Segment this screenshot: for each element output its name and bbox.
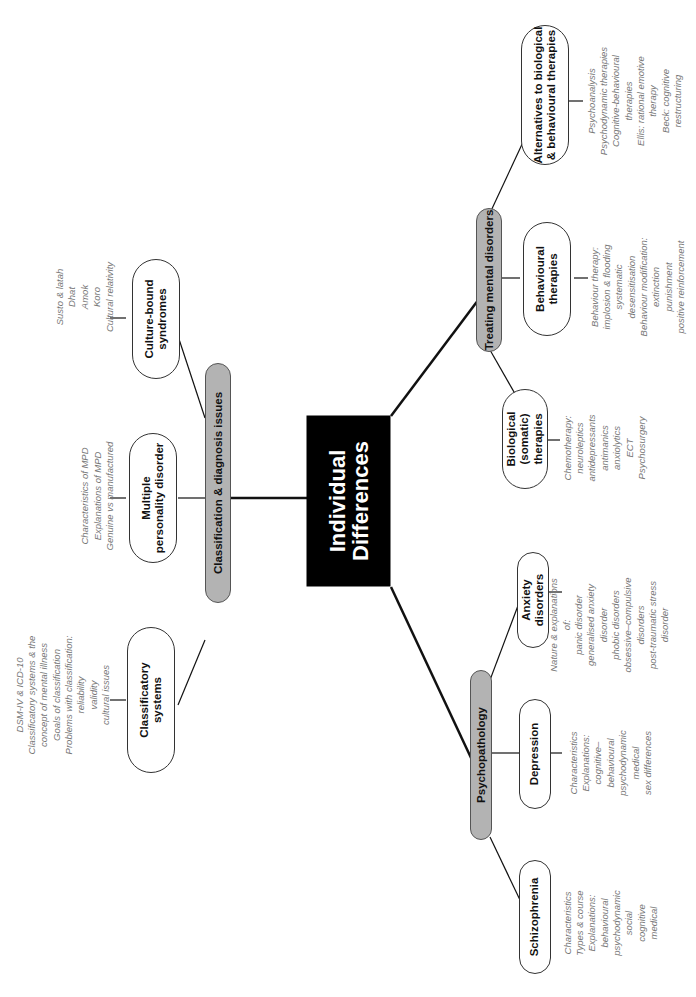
leaf-biological-line2: (somatic) therapies [518,390,544,488]
note-line: Psychosurgery [636,417,648,480]
note-line: obsessive–compulsive [622,577,634,672]
note-line: Classificatory systems & the [26,636,38,755]
notes-classificatory-systems: DSM-IV & ICD-10 Classificatory systems &… [16,620,110,770]
note-line: cognitive [636,904,648,942]
note-line: Goals of classification [51,649,63,741]
leaf-classificatory-line2: systems [151,677,164,723]
branch-treating-label: Treating mental disorders [483,210,495,351]
note-line: desensitisation [626,256,638,319]
note-line: Explanations: [580,734,592,791]
leaf-alternatives-line1: Alternatives to biological [532,27,545,164]
note-line: phobic disorders [610,590,622,660]
note-line: neuroleptics [574,422,586,473]
leaf-classificatory-systems: Classificatory systems [127,627,175,773]
note-line: generalised anxiety [585,584,597,666]
note-line: antidepressants [586,414,598,481]
note-line: panic disorder [573,595,585,655]
note-line: Behaviour therapy: [589,247,601,327]
note-line: implosion & flooding [601,244,613,329]
branch-psychopathology-label: Psychopathology [475,707,487,803]
leaf-depression-label: Depression [528,723,541,786]
note-line: of: [561,620,573,631]
note-line: anxiolytics [611,426,623,470]
note-line: social [623,911,635,935]
note-line: disorders [635,605,647,644]
note-line: Explanations of MPD [92,452,104,541]
note-line: extinction [650,267,662,307]
notes-alternatives-therapies: Psychoanalysis Psychodynamic therapies C… [590,41,680,161]
note-line: concept of mental illness [38,643,50,747]
central-title-line2: Differences [349,441,372,561]
note-line: Chemotherapy: [562,416,574,481]
leaf-biological-line1: Biological [505,412,518,467]
note-line: Susto & latah [54,269,66,326]
leaf-schizophrenia-label: Schizophrenia [528,878,541,957]
note-line: Psychodynamic therapies [598,47,610,155]
note-line: Characteristics of MPD [79,447,91,544]
mind-map: Individual Differences Classification & … [0,0,696,997]
leaf-alternatives-line2: & behavioural therapies [545,30,558,160]
leaf-mpd-line2: personality disorder [153,443,166,554]
note-line: Beck: cognitive [660,69,672,133]
note-line: DSM-IV & ICD-10 [14,658,26,733]
notes-multiple-personality-disorder: Characteristics of MPD Explanations of M… [76,436,120,556]
note-line: restructuring [672,75,684,128]
leaf-behavioural-line2: therapies [547,253,560,304]
central-title-line1: Individual [325,450,348,553]
note-line: Dhat [66,287,78,307]
note-line: Characteristics [568,732,580,795]
note-line: medical [630,747,642,780]
note-line: psychodynamic [611,890,623,955]
leaf-anxiety-label: Anxiety disorders [520,553,546,647]
note-line: Koro [91,287,103,307]
note-line: positive reinforcement [675,241,687,334]
note-line: Behaviour modification: [638,238,650,337]
leaf-classificatory-line1: Classificatory [138,662,151,737]
note-line: cultural issues [100,665,112,725]
leaf-behavioural-line1: Behavioural [534,246,547,312]
notes-schizophrenia: Characteristics Types & course Explanati… [568,878,654,968]
branch-classification: Classification & diagnosis issues [205,363,231,603]
branch-classification-label: Classification & diagnosis issues [212,392,224,574]
note-line: behavioural [599,898,611,947]
note-line: reliability [75,677,87,714]
note-line: post-traumatic stress [647,581,659,669]
note-line: Amok [79,285,91,309]
note-line: therapy [647,85,659,117]
note-line: Cultural relativity [104,262,116,332]
leaf-schizophrenia: Schizophrenia [519,860,551,974]
branch-psychopathology: Psychopathology [470,670,492,840]
note-line: validity [88,680,100,709]
note-line: ECT [624,439,636,458]
note-line: antimanics [599,425,611,470]
leaf-culture-bound-syndromes: Culture-bound syndromes [132,259,180,379]
leaf-biological-therapies: Biological (somatic) therapies [502,389,548,489]
note-line: Cognitive-behavioural [610,55,622,147]
notes-behavioural-therapies: Behaviour therapy: implosion & flooding … [593,227,683,347]
note-line: psychodynamic [617,730,629,795]
central-node: Individual Differences [307,416,391,587]
leaf-mpd-line1: Multiple [140,476,153,519]
note-line: cognitive– [592,742,604,785]
notes-biological-therapies: Chemotherapy: neuroleptics antidepressan… [567,398,643,498]
note-line: Types & course [574,890,586,955]
leaf-behavioural-therapies: Behavioural therapies [523,222,571,336]
note-line: Problems with classification: [63,636,75,755]
note-line: sex differences [642,731,654,795]
leaf-anxiety-disorders: Anxiety disorders [517,552,549,648]
note-line: therapies [623,81,635,120]
note-line: Genuine vs manufactured [104,442,116,551]
leaf-multiple-personality-disorder: Multiple personality disorder [129,433,177,563]
note-line: Ellis: rational emotive [635,56,647,146]
notes-anxiety-disorders: Nature & explanations of: panic disorder… [555,565,665,685]
note-line: behavioural [605,738,617,787]
notes-culture-bound-syndromes: Susto & latah Dhat Amok Koro Cultural re… [53,247,117,347]
leaf-culture-bound-line1: Culture-bound [143,279,156,358]
note-line: medical [648,907,660,940]
leaf-alternatives-therapies: Alternatives to biological & behavioural… [521,25,569,165]
note-line: Psychoanalysis [586,68,598,133]
note-line: disorder [598,608,610,642]
note-line: Characteristics [562,892,574,955]
note-line: Explanations: [586,894,598,951]
notes-depression: Characteristics Explanations: cognitive–… [573,718,649,808]
